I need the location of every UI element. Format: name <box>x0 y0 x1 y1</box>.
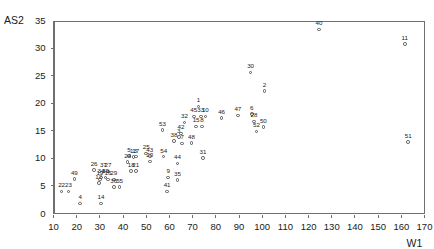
data-point <box>192 115 196 119</box>
data-point-label: 41 <box>164 182 171 188</box>
data-point-label: 29 <box>110 170 117 176</box>
plot-area <box>54 21 425 214</box>
y-tick-label: 25 <box>18 71 46 81</box>
data-point-label: 55 <box>116 178 123 184</box>
x-tick-mark <box>192 215 193 218</box>
data-point-label: 45 <box>190 107 197 113</box>
x-tick-mark <box>53 215 54 218</box>
data-point <box>236 114 240 118</box>
data-point-label: 4 <box>78 194 81 200</box>
data-point <box>262 125 266 129</box>
data-point-label: 51 <box>405 132 412 138</box>
data-point <box>406 140 410 144</box>
data-point-label: 30 <box>247 63 254 69</box>
x-tick-mark <box>146 215 147 218</box>
x-tick-mark <box>262 215 263 218</box>
data-point-label: 48 <box>188 134 195 140</box>
data-point-label: 46 <box>218 109 225 115</box>
data-point-label: 23 <box>65 182 72 188</box>
y-tick-label: 5 <box>18 181 46 191</box>
x-tick-mark <box>308 215 309 218</box>
data-point-label: 42 <box>178 124 185 130</box>
x-tick-mark <box>239 215 240 218</box>
data-point <box>148 160 152 164</box>
data-point <box>112 185 116 189</box>
x-tick-mark <box>215 215 216 218</box>
data-point <box>263 89 267 93</box>
data-point <box>201 156 205 160</box>
x-tick-mark <box>76 215 77 218</box>
data-point-label: 49 <box>71 169 78 175</box>
data-point-label: 38 <box>171 132 178 138</box>
y-tick-label: 0 <box>18 209 46 219</box>
data-point <box>403 42 407 46</box>
data-point-label: 47 <box>234 106 241 112</box>
data-point <box>317 28 321 32</box>
x-tick-mark <box>354 215 355 218</box>
data-point-label: 43 <box>146 147 153 153</box>
y-tick-label: 10 <box>18 153 46 163</box>
data-point <box>176 178 180 182</box>
y-axis-spine <box>53 21 54 214</box>
data-point-label: 21 <box>132 162 139 168</box>
x-tick-mark <box>169 215 170 218</box>
data-point-label: 17 <box>132 147 139 153</box>
data-point <box>97 181 101 185</box>
y-tick-label: 20 <box>18 98 46 108</box>
data-point-label: 35 <box>174 170 181 176</box>
x-tick-mark <box>285 215 286 218</box>
data-point <box>199 115 203 119</box>
data-point-label: 50 <box>260 118 267 124</box>
data-point-label: 2 <box>263 82 266 88</box>
data-point <box>172 139 176 143</box>
x-axis-spine <box>54 213 425 214</box>
data-point <box>134 169 138 173</box>
data-point-label: 31 <box>200 148 207 154</box>
x-tick-label: 170 <box>411 222 434 232</box>
data-point-label: 40 <box>316 20 323 26</box>
data-point-label: 53 <box>159 121 166 127</box>
data-point-label: 44 <box>174 154 181 160</box>
data-point-label: 11 <box>402 35 408 41</box>
x-tick-mark <box>331 215 332 218</box>
data-point <box>73 177 77 181</box>
x-tick-mark <box>378 215 379 218</box>
data-point <box>129 169 133 173</box>
data-point-label: 54 <box>160 147 167 153</box>
data-point-label: 9 <box>167 168 170 174</box>
scatter-chart: AS2 W1 05101520253035 102030405060708090… <box>0 0 434 249</box>
data-point <box>148 154 152 158</box>
data-point <box>190 141 194 145</box>
data-point <box>200 125 204 129</box>
data-point-label: 22 <box>58 182 65 188</box>
y-tick-label: 35 <box>18 16 46 26</box>
data-point-label: 32 <box>181 113 188 119</box>
data-point-label: 26 <box>91 161 98 167</box>
data-point-label: 14 <box>98 194 105 200</box>
x-tick-mark <box>99 215 100 218</box>
data-point-label: 39 <box>102 168 109 174</box>
x-tick-mark <box>424 215 425 218</box>
y-tick-label: 30 <box>18 43 46 53</box>
data-point <box>165 190 169 194</box>
data-point <box>92 168 96 172</box>
x-axis-title: W1 <box>407 238 423 249</box>
data-point-label: 1 <box>197 97 200 103</box>
data-point-label: 52 <box>253 122 260 128</box>
data-point <box>194 125 198 129</box>
data-point-label: 24 <box>124 153 131 159</box>
x-tick-mark <box>123 215 124 218</box>
data-point-label: 28 <box>251 112 258 118</box>
data-point-label: 33 <box>197 107 204 113</box>
y-tick-label: 15 <box>18 126 46 136</box>
x-tick-mark <box>401 215 402 218</box>
